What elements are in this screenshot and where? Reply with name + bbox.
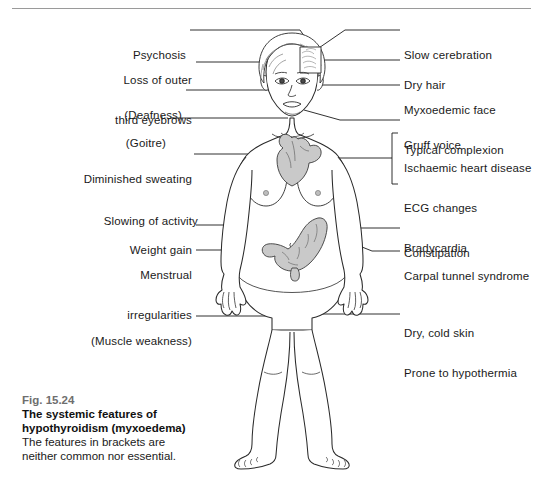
leg-right bbox=[294, 330, 349, 469]
nipple-left bbox=[263, 190, 268, 195]
label-line: ECG changes bbox=[404, 202, 531, 215]
label-muscle-weakness[interactable]: (Muscle weakness) bbox=[91, 309, 192, 375]
brain-cutaway-window bbox=[300, 47, 321, 73]
label-line: Diminished sweating bbox=[84, 173, 192, 186]
label-skin-group[interactable]: Dry, cold skin Prone to hypothermia bbox=[404, 301, 517, 407]
figure-note-line-2: neither common nor essential. bbox=[22, 449, 252, 463]
figure-plate: Psychosis Loss of outer third eyebrows (… bbox=[0, 0, 543, 487]
leader-gruff-voice bbox=[304, 110, 400, 120]
figure-title-line-1: The systemic features of bbox=[22, 407, 252, 421]
label-line: (Muscle weakness) bbox=[91, 335, 192, 348]
leader-slow-cerebration bbox=[313, 30, 400, 52]
label-line: Prone to hypothermia bbox=[404, 367, 517, 380]
figure-number: Fig. 15.24 bbox=[22, 393, 252, 407]
label-line: Carpal tunnel syndrome bbox=[404, 270, 529, 283]
cardiac-group-bracket bbox=[392, 133, 398, 184]
pupil-right bbox=[301, 79, 305, 83]
label-line: Dry, cold skin bbox=[404, 327, 517, 340]
label-line: Menstrual bbox=[127, 269, 192, 282]
label-line: Ischaemic heart disease bbox=[404, 162, 531, 175]
figure-caption: Fig. 15.24 The systemic features of hypo… bbox=[22, 393, 252, 463]
pupil-left bbox=[280, 79, 284, 83]
figure-title-line-2: hypothyroidism (myxoedema) bbox=[22, 421, 252, 435]
nipple-right bbox=[315, 190, 320, 195]
figure-note-line-1: The features in brackets are bbox=[22, 435, 252, 449]
